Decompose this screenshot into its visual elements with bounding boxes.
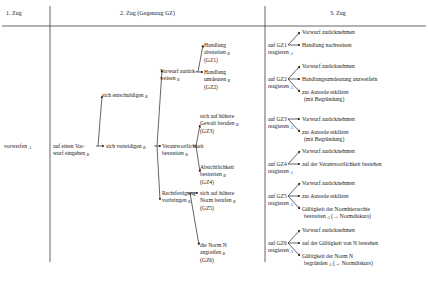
option: zur Ausrede erklären xyxy=(302,129,349,136)
role-sub: A xyxy=(290,125,292,130)
node-verteidigen: sich verteidigen B xyxy=(106,143,145,152)
option: Vorwurf zurücknehmen xyxy=(302,63,355,70)
node-label: abstreiten xyxy=(204,49,226,55)
react-label: reagieren xyxy=(268,49,289,55)
node-gz2: Handlung umdeuten B (GZ2) xyxy=(204,69,230,91)
role-sub: B xyxy=(236,122,238,127)
react-label: reagieren xyxy=(268,123,289,129)
option: (mit Begründung) xyxy=(304,96,344,103)
gz-tag: (GZ4) xyxy=(200,179,234,186)
node-label: sich verteidigen xyxy=(106,143,142,149)
node-label: Absichtlichkeit xyxy=(200,164,234,171)
node-label: wurf eingehen xyxy=(53,150,85,156)
option-text: bestreiten xyxy=(304,213,326,219)
react-label: auf GZ4 xyxy=(268,161,293,168)
gz-tag: (GZ1) xyxy=(204,57,230,64)
node-label: sich auf höhere xyxy=(200,190,235,197)
option: bestreiten A (→ Normdiskurs) xyxy=(304,213,371,222)
role-sub: B xyxy=(223,251,225,256)
option: Handlungsumdeutung anzweifeln xyxy=(302,76,377,83)
node-entschuldigen: sich entschuldigen B xyxy=(102,92,147,101)
role-sub: A xyxy=(290,51,292,56)
role-sub: B xyxy=(145,94,147,99)
option: Gültigkeit der Norm N xyxy=(302,253,353,260)
option: Vorwurf zurücknehmen xyxy=(302,148,355,155)
role-sub: B xyxy=(188,199,190,204)
role-sub: A xyxy=(290,85,292,90)
option: begründen A (→ Normdiskurs) xyxy=(304,260,373,269)
role-sub: B xyxy=(185,152,187,157)
gz-tag: (GZ2) xyxy=(204,84,230,91)
node-gz6: die Norm N angreifen B (GZ6) xyxy=(200,242,227,264)
role-sub: A xyxy=(327,215,329,220)
node-label: Gewalt berufen xyxy=(200,120,235,126)
react-label: reagieren xyxy=(268,247,289,253)
option: Vorwurf zurücknehmen xyxy=(302,29,355,36)
option-text: begründen xyxy=(304,260,328,266)
node-vorwerfen: vorwerfen A xyxy=(4,143,31,152)
react-label: reagieren xyxy=(268,83,289,89)
role-sub: A xyxy=(28,145,30,150)
node-label: Handlung xyxy=(204,69,230,76)
role-sub: B xyxy=(143,145,145,150)
node-vorwurf-zurueckweisen: Vorwurf zurück- weisen B xyxy=(160,68,197,83)
react-gz6: auf GZ6reagieren A xyxy=(268,240,293,255)
node-verantwortlichkeit: Verantwortlichkeit bestreiten B xyxy=(162,143,204,158)
gz-tag: (GZ6) xyxy=(200,257,227,264)
role-sub: B xyxy=(177,77,179,82)
role-sub: A xyxy=(290,249,292,254)
option-text: (→ Normdiskurs) xyxy=(333,260,373,266)
option: auf der Verantwortlichkeit bestehen xyxy=(302,161,382,168)
option: Handlung nachweisen xyxy=(302,42,352,49)
react-gz4: auf GZ4reagieren A xyxy=(268,161,293,176)
node-label: Verantwortlichkeit xyxy=(162,143,204,150)
node-label: umdeuten xyxy=(204,76,226,82)
react-label: auf GZ6 xyxy=(268,240,293,247)
node-gz4: Absichtlichkeit bestreiten B (GZ4) xyxy=(200,164,234,186)
option: zur Ausrede erklären xyxy=(302,89,349,96)
react-label: auf GZ5 xyxy=(268,193,293,200)
role-sub: A xyxy=(290,170,292,175)
header-col3: 3. Zug xyxy=(330,10,346,16)
option: Vorwurf zurücknehmen xyxy=(302,116,355,123)
node-label: vorwerfen xyxy=(4,143,27,149)
node-label: vorbringen xyxy=(162,197,187,203)
node-label: Rechtfertigung xyxy=(162,190,196,197)
node-label: die Norm N xyxy=(200,242,227,249)
role-sub: B xyxy=(233,199,235,204)
node-label: Vorwurf zurück- xyxy=(160,68,197,75)
react-label: auf GZ2 xyxy=(268,76,293,83)
react-gz1: auf GZ1reagieren A xyxy=(268,42,293,57)
node-label: bestreiten xyxy=(162,150,184,156)
node-label: weisen xyxy=(160,75,176,81)
role-sub: B xyxy=(227,51,229,56)
role-sub: B xyxy=(227,78,229,83)
node-label: sich auf höhere xyxy=(200,113,239,120)
node-label: sich entschuldigen xyxy=(102,92,143,98)
node-gz3: sich auf höhere Gewalt berufen B (GZ3) xyxy=(200,113,239,135)
node-gz1: Handlung abstreiten B (GZ1) xyxy=(204,42,230,64)
header-col2: 2. Zug (Gegenzug GZ) xyxy=(120,10,175,16)
node-gz5: sich auf höhere Norm berufen B (GZ5) xyxy=(200,190,235,212)
option-text: (→ Normdiskurs) xyxy=(331,213,371,219)
option: (mit Begründung) xyxy=(304,136,344,143)
role-sub: A xyxy=(290,202,292,207)
node-label: Norm berufen xyxy=(200,197,232,203)
node-label: Handlung xyxy=(204,42,230,49)
react-gz5: auf GZ5reagieren A xyxy=(268,193,293,208)
option: zur Ausrede erklären xyxy=(302,193,349,200)
gz-tag: (GZ3) xyxy=(200,128,239,135)
react-label: reagieren xyxy=(268,168,289,174)
node-rechtfertigung: Rechtfertigung vorbringen B xyxy=(162,190,196,205)
react-gz3: auf GZ3reagieren A xyxy=(268,116,293,131)
role-sub: B xyxy=(223,173,225,178)
react-label: reagieren xyxy=(268,200,289,206)
option: Vorwurf zurücknehmen xyxy=(302,180,355,187)
node-label: auf einen Vor- xyxy=(53,143,89,150)
header-col1: 1. Zug xyxy=(6,10,22,16)
option: Gültigkeit der Normhierarchie xyxy=(302,206,370,213)
option: Vorwurf zurücknehmen xyxy=(302,227,355,234)
react-gz2: auf GZ2reagieren A xyxy=(268,76,293,91)
role-sub: A xyxy=(329,262,331,267)
gz-tag: (GZ5) xyxy=(200,205,235,212)
